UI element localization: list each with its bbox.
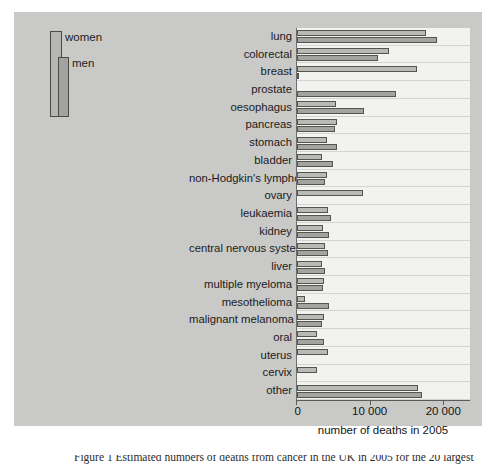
figure-caption-text: Figure 1 Estimated numbers of deaths fro… bbox=[74, 455, 494, 463]
bar-men bbox=[297, 161, 333, 167]
bar-women bbox=[297, 30, 426, 36]
bar-women bbox=[297, 296, 305, 302]
figure-panel: women men lungcolorectalbreastprostateoe… bbox=[14, 12, 482, 426]
category-label: stomach bbox=[189, 137, 292, 148]
gridline bbox=[297, 381, 470, 382]
gridline bbox=[297, 240, 470, 241]
bar-women bbox=[297, 190, 363, 196]
gridline bbox=[297, 151, 470, 152]
bar-men bbox=[297, 37, 437, 43]
bar-men bbox=[297, 126, 335, 132]
category-label: non-Hodgkin's lymphoma bbox=[189, 173, 292, 184]
bar-men bbox=[297, 285, 323, 291]
category-label: oesophagus bbox=[189, 102, 292, 113]
bar-men bbox=[297, 268, 325, 274]
category-label: kidney bbox=[189, 226, 292, 237]
bar-men bbox=[297, 55, 378, 61]
bar-men bbox=[297, 392, 422, 398]
category-label: malignant melanoma bbox=[189, 314, 292, 325]
gridline bbox=[297, 310, 470, 311]
x-tick-label: 0 bbox=[294, 406, 300, 418]
category-label: uterus bbox=[189, 350, 292, 361]
category-label: other bbox=[189, 385, 292, 396]
category-label: central nervous system bbox=[189, 243, 292, 254]
category-label: cervix bbox=[189, 367, 292, 378]
gridline bbox=[297, 257, 470, 258]
category-label: mesothelioma bbox=[189, 297, 292, 308]
x-axis-title: number of deaths in 2005 bbox=[296, 424, 470, 436]
gridline bbox=[297, 133, 470, 134]
bar-women bbox=[297, 154, 322, 160]
bar-women bbox=[297, 225, 323, 231]
bar-men bbox=[297, 144, 337, 150]
bar-women bbox=[297, 261, 322, 267]
x-tick-label: 20 000 bbox=[426, 406, 461, 418]
chart: lungcolorectalbreastprostateoesophaguspa… bbox=[189, 28, 474, 428]
bar-men bbox=[297, 215, 331, 221]
bar-women bbox=[297, 385, 418, 391]
bar-men bbox=[297, 321, 322, 327]
bar-women bbox=[297, 101, 336, 107]
gridline bbox=[297, 328, 470, 329]
bar-women bbox=[297, 137, 327, 143]
gridline bbox=[297, 346, 470, 347]
figure-caption: Figure 1 Estimated numbers of deaths fro… bbox=[74, 455, 494, 468]
gridline bbox=[297, 45, 470, 46]
plot-area bbox=[296, 28, 470, 400]
category-label: ovary bbox=[189, 190, 292, 201]
category-label: breast bbox=[189, 66, 292, 77]
bar-women bbox=[297, 66, 417, 72]
gridline bbox=[297, 364, 470, 365]
legend-swatch-men bbox=[58, 57, 69, 117]
gridline bbox=[297, 293, 470, 294]
gridline bbox=[297, 80, 470, 81]
bar-women bbox=[297, 243, 325, 249]
bar-men bbox=[297, 232, 329, 238]
legend-label-women: women bbox=[65, 32, 102, 44]
bar-women bbox=[297, 331, 317, 337]
gridline bbox=[297, 275, 470, 276]
bar-men bbox=[297, 179, 325, 185]
bar-women bbox=[297, 314, 324, 320]
category-label: multiple myeloma bbox=[189, 279, 292, 290]
gridline bbox=[297, 186, 470, 187]
bar-women bbox=[297, 48, 389, 54]
category-label: oral bbox=[189, 332, 292, 343]
category-axis: lungcolorectalbreastprostateoesophaguspa… bbox=[189, 28, 292, 400]
bar-women bbox=[297, 349, 328, 355]
gridline bbox=[297, 169, 470, 170]
gridline bbox=[297, 222, 470, 223]
gridline bbox=[297, 204, 470, 205]
bar-men bbox=[297, 250, 328, 256]
gridline bbox=[297, 116, 470, 117]
bar-men bbox=[297, 108, 364, 114]
bar-women bbox=[297, 119, 337, 125]
bar-men bbox=[297, 303, 329, 309]
category-label: leukaemia bbox=[189, 208, 292, 219]
gridline bbox=[297, 98, 470, 99]
category-label: bladder bbox=[189, 155, 292, 166]
category-label: prostate bbox=[189, 84, 292, 95]
legend: women men bbox=[34, 27, 154, 122]
legend-label-men: men bbox=[72, 58, 94, 70]
bar-men bbox=[297, 339, 324, 345]
bar-men bbox=[297, 73, 299, 79]
gridline bbox=[297, 62, 470, 63]
bar-women bbox=[297, 172, 327, 178]
bar-women bbox=[297, 278, 324, 284]
bar-women bbox=[297, 367, 317, 373]
category-label: colorectal bbox=[189, 49, 292, 60]
category-label: pancreas bbox=[189, 119, 292, 130]
category-label: lung bbox=[189, 31, 292, 42]
category-label: liver bbox=[189, 261, 292, 272]
bar-men bbox=[297, 91, 396, 97]
x-tick-label: 10 000 bbox=[352, 406, 387, 418]
bar-women bbox=[297, 207, 328, 213]
